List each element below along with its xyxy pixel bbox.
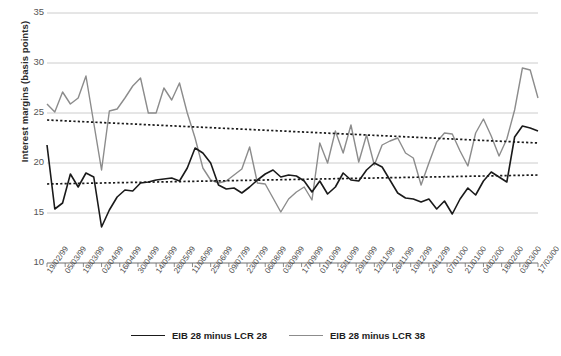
- y-axis-tick-label: 30: [14, 56, 44, 67]
- legend-item-series-1: EIB 28 minus LCR 28: [131, 330, 267, 341]
- y-axis-tick-label: 10: [14, 256, 44, 267]
- legend-label-series-1: EIB 28 minus LCR 28: [172, 330, 267, 341]
- legend-swatch-series-2: [289, 335, 323, 336]
- y-axis-title: Interest margins (basis points): [19, 12, 30, 172]
- y-axis-tick-label: 25: [14, 106, 44, 117]
- trendline: [47, 175, 538, 184]
- series-line: [47, 68, 538, 212]
- trendline: [47, 120, 538, 143]
- legend-item-series-2: EIB 28 minus LCR 38: [289, 330, 425, 341]
- y-axis-tick-label: 20: [14, 156, 44, 167]
- y-axis-tick-label: 15: [14, 206, 44, 217]
- chart-legend: EIB 28 minus LCR 28 EIB 28 minus LCR 38: [0, 330, 556, 341]
- series-line: [47, 126, 538, 227]
- legend-label-series-2: EIB 28 minus LCR 38: [330, 330, 425, 341]
- legend-swatch-series-1: [131, 335, 165, 336]
- y-axis-tick-label: 35: [14, 6, 44, 17]
